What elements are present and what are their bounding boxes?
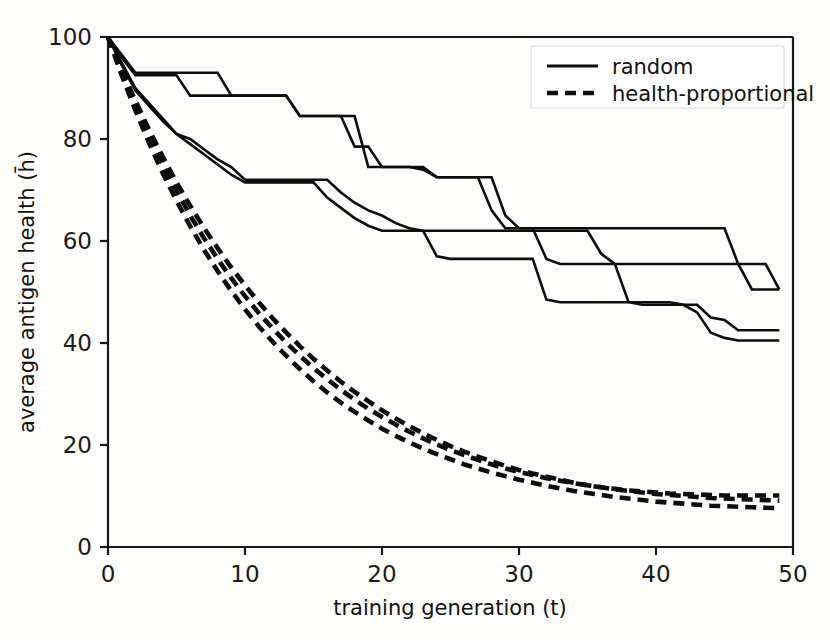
x-axis-title: training generation (t) bbox=[333, 596, 567, 620]
y-tick-label: 40 bbox=[63, 330, 92, 356]
legend: random health-proportional bbox=[531, 46, 814, 108]
y-tick-label: 80 bbox=[63, 126, 92, 152]
x-tick-label: 30 bbox=[504, 561, 533, 587]
x-tick-label: 50 bbox=[778, 561, 807, 587]
chart-figure: 01020304050 020406080100 training genera… bbox=[0, 0, 830, 640]
x-tick-label: 0 bbox=[101, 561, 116, 587]
x-tick-label: 20 bbox=[367, 561, 396, 587]
y-tick-labels: 020406080100 bbox=[48, 24, 92, 560]
x-tick-label: 10 bbox=[230, 561, 259, 587]
legend-label-random: random bbox=[612, 55, 693, 79]
line-chart: 01020304050 020406080100 training genera… bbox=[0, 0, 830, 640]
tick-marks bbox=[100, 37, 793, 555]
x-tick-labels: 01020304050 bbox=[101, 561, 808, 587]
y-tick-label: 20 bbox=[63, 432, 92, 458]
y-tick-label: 100 bbox=[48, 24, 92, 50]
y-tick-label: 0 bbox=[77, 534, 92, 560]
y-axis-title: average antigen health (h̄) bbox=[14, 151, 39, 433]
y-tick-label: 60 bbox=[63, 228, 92, 254]
axes-frame bbox=[108, 37, 793, 547]
x-tick-label: 40 bbox=[641, 561, 670, 587]
legend-label-health-proportional: health-proportional bbox=[612, 82, 814, 106]
